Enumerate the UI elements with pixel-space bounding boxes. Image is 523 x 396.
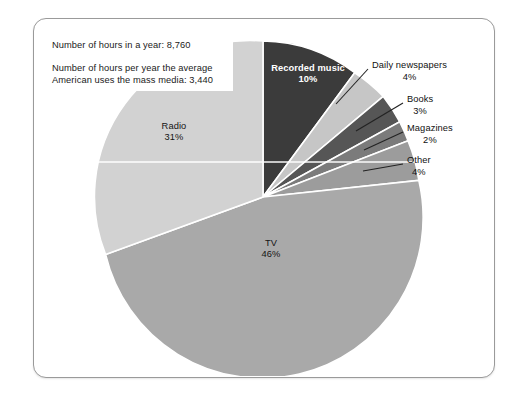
pie-callout-books: Books 3% bbox=[407, 94, 433, 117]
pie-chart: Recorded music 10% Radio 31% TV 46% Dail… bbox=[34, 19, 494, 376]
pie-callout-other-value: 4% bbox=[407, 167, 431, 179]
figure-card: Recorded music 10% Radio 31% TV 46% Dail… bbox=[33, 18, 495, 378]
figure-page: Recorded music 10% Radio 31% TV 46% Dail… bbox=[0, 0, 523, 396]
pie-callout-daily-newspapers-name: Daily newspapers bbox=[372, 60, 447, 70]
pie-slices bbox=[94, 40, 423, 376]
pie-callout-daily-newspapers-value: 4% bbox=[372, 72, 447, 84]
pie-callout-books-value: 3% bbox=[407, 106, 433, 118]
figure-note-hours-in-year: Number of hours in a year: 8,760 bbox=[52, 39, 230, 51]
pie-callout-magazines-name: Magazines bbox=[407, 123, 453, 133]
pie-callout-books-name: Books bbox=[407, 94, 433, 104]
pie-callout-daily-newspapers: Daily newspapers 4% bbox=[372, 60, 447, 83]
figure-notes: Number of hours in a year: 8,760 Number … bbox=[49, 37, 233, 91]
pie-callout-other-name: Other bbox=[407, 155, 431, 165]
pie-callout-magazines-value: 2% bbox=[407, 135, 453, 147]
figure-note-media-hours: Number of hours per year the average Ame… bbox=[52, 62, 230, 86]
pie-callout-magazines: Magazines 2% bbox=[407, 123, 453, 146]
pie-callout-other: Other 4% bbox=[407, 155, 431, 178]
